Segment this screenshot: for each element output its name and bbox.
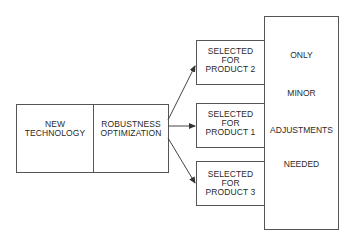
product-2-box: SELECTED FOR PRODUCT 2	[196, 40, 265, 85]
product-3-label: SELECTED FOR PRODUCT 3	[197, 170, 264, 197]
product-2-label: SELECTED FOR PRODUCT 2	[197, 47, 264, 74]
outcome-box: ONLY MINOR ADJUSTMENTS NEEDED	[264, 16, 339, 230]
robustness-optimization-label: ROBUSTNESS OPTIMIZATION	[94, 120, 168, 138]
arrow-to-product-2	[168, 66, 195, 120]
product-3-box: SELECTED FOR PRODUCT 3	[196, 161, 265, 206]
block-divider	[93, 104, 94, 173]
arrow-to-product-3	[168, 138, 195, 183]
outcome-word-adjustments: ADJUSTMENTS	[265, 125, 338, 135]
product-1-box: SELECTED FOR PRODUCT 1	[196, 103, 265, 148]
product-1-label: SELECTED FOR PRODUCT 1	[197, 110, 264, 137]
outcome-word-needed: NEEDED	[265, 159, 338, 169]
new-technology-label: NEW TECHNOLOGY	[17, 120, 93, 138]
outcome-word-minor: MINOR	[265, 88, 338, 98]
outcome-word-only: ONLY	[265, 50, 338, 60]
